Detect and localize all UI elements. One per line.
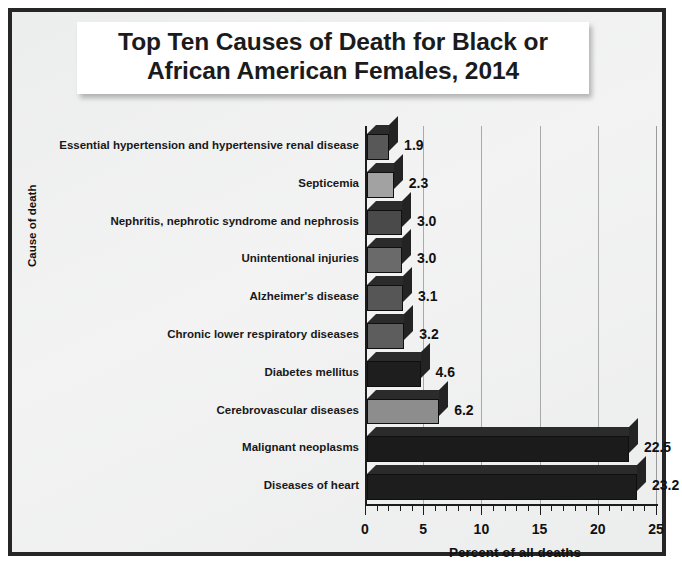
category-label-4: Unintentional injuries: [22, 252, 359, 264]
category-label-7: Diabetes mellitus: [22, 366, 359, 378]
category-label-1: Essential hypertension and hypertensive …: [22, 139, 359, 151]
bar-7[interactable]: [367, 361, 421, 387]
x-tick-5: [423, 506, 424, 515]
bar-side-face: [404, 305, 413, 340]
category-label-3: Nephritis, nephrotic syndrome and nephro…: [22, 215, 359, 227]
bar-side-face: [394, 154, 403, 189]
x-tick-19: [586, 506, 587, 511]
value-label-4: 3.0: [417, 250, 436, 266]
bar-side-face: [637, 456, 646, 491]
category-label-10: Diseases of heart: [22, 479, 359, 491]
bar-top-face: [367, 465, 646, 474]
bar-top-face: [367, 427, 638, 436]
x-tick-3: [400, 506, 401, 511]
bar-side-face: [402, 229, 411, 264]
bar-4[interactable]: [367, 247, 402, 273]
x-tick-label-15: 15: [532, 521, 548, 537]
bar-10[interactable]: [367, 474, 637, 500]
x-tick-8: [458, 506, 459, 511]
bar-side-face: [402, 192, 411, 227]
x-tick-0: [365, 506, 366, 515]
x-tick-10: [481, 506, 482, 515]
x-tick-20: [598, 506, 599, 515]
x-axis-line: [365, 504, 658, 506]
bar-1[interactable]: [367, 134, 389, 160]
bar-side-face: [439, 381, 448, 416]
chart-frame: Top Ten Causes of Death for Black or Afr…: [8, 8, 666, 556]
slide-canvas: Top Ten Causes of Death for Black or Afr…: [0, 0, 682, 569]
bar-3[interactable]: [367, 210, 402, 236]
x-tick-label-20: 20: [590, 521, 606, 537]
category-label-8: Cerebrovascular diseases: [22, 404, 359, 416]
bar-top-face: [367, 390, 448, 399]
x-tick-15: [540, 506, 541, 515]
category-label-9: Malignant neoplasms: [22, 441, 359, 453]
value-label-6: 3.2: [419, 326, 438, 342]
x-tick-label-25: 25: [648, 521, 664, 537]
value-label-10: 23.2: [652, 477, 679, 493]
value-label-3: 3.0: [417, 213, 436, 229]
x-tick-label-10: 10: [474, 521, 490, 537]
bar-side-face: [389, 116, 398, 151]
bar-5[interactable]: [367, 285, 403, 311]
category-label-5: Alzheimer's disease: [22, 290, 359, 302]
x-tick-label-5: 5: [419, 521, 427, 537]
x-tick-9: [470, 506, 471, 511]
x-tick-16: [551, 506, 552, 511]
bar-6[interactable]: [367, 323, 404, 349]
x-tick-18: [575, 506, 576, 511]
x-tick-label-0: 0: [361, 521, 369, 537]
value-label-5: 3.1: [418, 288, 437, 304]
value-label-1: 1.9: [404, 137, 423, 153]
x-tick-4: [412, 506, 413, 511]
x-tick-25: [656, 506, 657, 515]
x-tick-11: [493, 506, 494, 511]
category-label-2: Septicemia: [22, 177, 359, 189]
x-tick-17: [563, 506, 564, 511]
bar-9[interactable]: [367, 436, 629, 462]
category-label-6: Chronic lower respiratory diseases: [22, 328, 359, 340]
bar-8[interactable]: [367, 399, 439, 425]
value-label-7: 4.6: [436, 364, 455, 380]
value-label-2: 2.3: [409, 175, 428, 191]
x-tick-24: [644, 506, 645, 511]
x-tick-23: [633, 506, 634, 511]
x-tick-22: [621, 506, 622, 511]
bar-2[interactable]: [367, 172, 394, 198]
bar-side-face: [421, 343, 430, 378]
x-tick-6: [435, 506, 436, 511]
chart-title-box: Top Ten Causes of Death for Black or Afr…: [77, 22, 589, 94]
chart-title: Top Ten Causes of Death for Black or Afr…: [87, 28, 579, 86]
x-tick-1: [377, 506, 378, 511]
x-tick-21: [609, 506, 610, 511]
x-axis-title: Percent of all deaths: [369, 545, 661, 560]
x-tick-2: [388, 506, 389, 511]
value-label-9: 22.5: [644, 439, 671, 455]
x-tick-13: [516, 506, 517, 511]
x-tick-7: [446, 506, 447, 511]
x-tick-14: [528, 506, 529, 511]
bar-side-face: [403, 267, 412, 302]
bar-side-face: [629, 418, 638, 453]
x-tick-12: [505, 506, 506, 511]
value-label-8: 6.2: [454, 402, 473, 418]
